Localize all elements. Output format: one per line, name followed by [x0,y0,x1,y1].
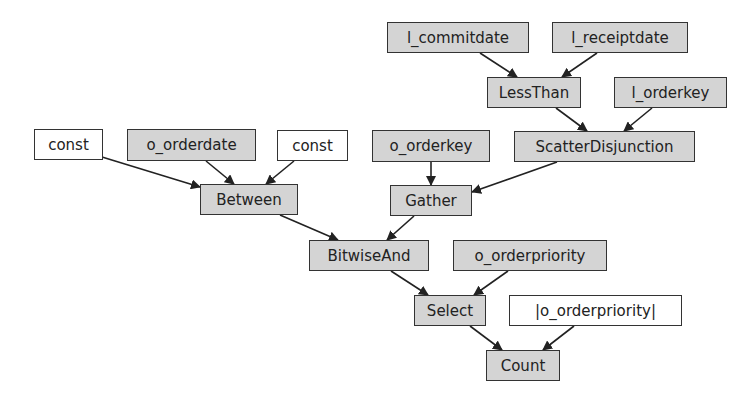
edge-const1-between [102,157,200,187]
node-label: Between [216,191,282,209]
node-o_orderdate[interactable]: o_orderdate [127,129,256,161]
node-label: BitwiseAnd [327,247,410,265]
edge-bitwiseand-select [391,271,428,295]
node-scatterdisjunction[interactable]: ScatterDisjunction [514,131,695,162]
node-label: Gather [405,192,457,210]
node-const-2[interactable]: const [277,130,348,161]
node-label: Select [427,302,473,320]
edge-o_orderpriority-select [474,271,508,295]
node-const-1[interactable]: const [34,129,103,160]
node-label: const [48,136,89,154]
node-lessthan[interactable]: LessThan [487,77,581,108]
query-plan-diagram: l_commitdate l_receiptdate LessThan l_or… [0,0,755,406]
edge-scatterdisjunction-gather [472,162,557,192]
node-o_orderpriority[interactable]: o_orderpriority [453,240,607,271]
node-count[interactable]: Count [486,350,560,381]
edge-between-bitwiseand [280,215,338,240]
node-label: l_commitdate [407,29,509,47]
node-label: o_orderpriority [475,247,586,265]
node-label: ScatterDisjunction [536,138,674,156]
node-label: Count [501,357,546,375]
edge-lessthan-scatterdisjunction [556,108,587,131]
edge-o_orderdate-between [206,161,234,184]
node-label: LessThan [499,84,569,102]
node-between[interactable]: Between [200,184,298,215]
node-select[interactable]: Select [414,295,486,326]
node-l_commitdate[interactable]: l_commitdate [387,22,529,53]
node-label: o_orderkey [390,137,473,155]
edge-const2-between [266,161,294,184]
node-label: o_orderdate [146,136,236,154]
edge-gather-bitwiseand [387,216,414,240]
node-l_receiptdate[interactable]: l_receiptdate [552,22,688,53]
node-label: const [292,137,333,155]
node-label: l_receiptdate [571,29,669,47]
node-o_orderkey[interactable]: o_orderkey [372,130,490,162]
edge-o_orderpriority_abs-count [543,326,574,350]
edge-select-count [470,326,502,350]
node-o_orderpriority-abs[interactable]: |o_orderpriority| [509,295,682,326]
edge-l_receiptdate-lessthan [562,53,597,77]
edge-l_orderkey-scatterdisjunction [624,108,652,131]
node-bitwiseand[interactable]: BitwiseAnd [309,240,429,271]
edge-layer [0,0,755,406]
edge-l_commitdate-lessthan [480,53,517,77]
node-label: l_orderkey [632,84,710,102]
node-l_orderkey[interactable]: l_orderkey [614,77,727,108]
node-gather[interactable]: Gather [390,185,472,216]
node-label: |o_orderpriority| [535,302,656,320]
